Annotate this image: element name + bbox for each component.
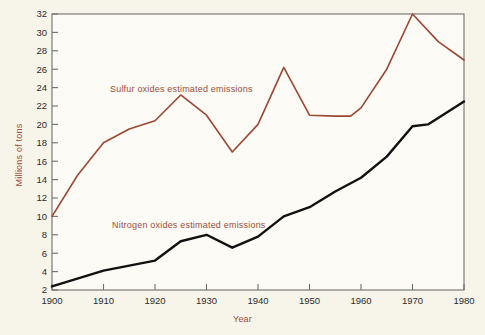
- y-tick-label: 4: [42, 266, 47, 277]
- x-tick-label: 1930: [196, 295, 217, 306]
- y-tick-label: 2: [42, 284, 47, 295]
- x-tick-label: 1970: [402, 295, 423, 306]
- y-tick-label: 8: [42, 229, 47, 240]
- y-tick-label: 12: [36, 192, 47, 203]
- plot-background: [52, 14, 464, 290]
- y-tick-label: 32: [36, 8, 47, 19]
- series-annotation-sulfur: Sulfur oxides estimated emissions: [110, 84, 253, 94]
- chart-canvas: 2468101214161820222426283032 19001910192…: [0, 0, 485, 335]
- emissions-line-chart: 2468101214161820222426283032 19001910192…: [0, 0, 485, 335]
- x-tick-label: 1900: [41, 295, 62, 306]
- x-tick-label: 1910: [93, 295, 114, 306]
- x-axis-title: Year: [0, 314, 485, 324]
- y-tick-label: 14: [36, 174, 47, 185]
- y-tick-label: 20: [36, 119, 47, 130]
- y-tick-label: 24: [36, 82, 47, 93]
- series-annotation-nitrogen: Nitrogen oxides estimated emissions: [112, 220, 266, 230]
- y-axis-title: Millions of tons: [14, 115, 24, 195]
- x-tick-label: 1980: [453, 295, 474, 306]
- x-tick-label: 1940: [247, 295, 268, 306]
- y-tick-label: 22: [36, 100, 47, 111]
- x-tick-label: 1950: [299, 295, 320, 306]
- y-tick-label: 28: [36, 45, 47, 56]
- x-tick-label: 1960: [350, 295, 371, 306]
- y-tick-label: 18: [36, 137, 47, 148]
- y-tick-label: 16: [36, 156, 47, 167]
- x-axis-tick-labels: 190019101920193019401950196019701980: [41, 295, 474, 306]
- y-tick-label: 6: [42, 248, 47, 259]
- y-axis-tick-labels: 2468101214161820222426283032: [36, 8, 47, 295]
- y-tick-label: 30: [36, 27, 47, 38]
- y-tick-label: 10: [36, 211, 47, 222]
- x-tick-label: 1920: [144, 295, 165, 306]
- y-tick-label: 26: [36, 64, 47, 75]
